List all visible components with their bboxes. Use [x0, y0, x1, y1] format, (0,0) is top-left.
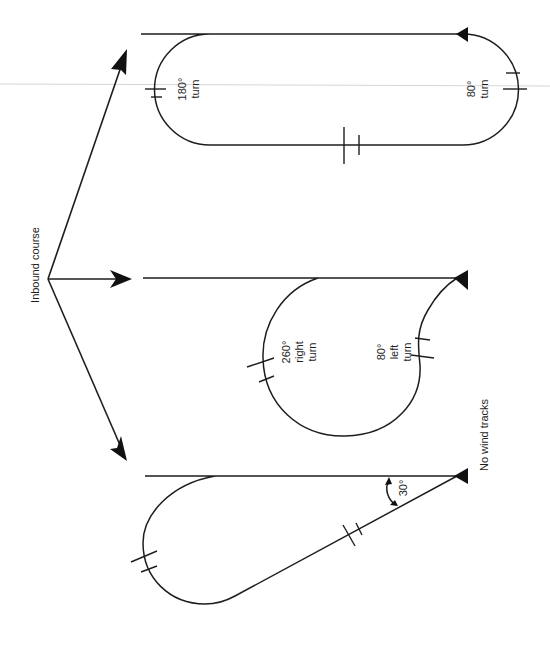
svg-text:180°: 180° [176, 78, 188, 101]
tick-mark [247, 358, 274, 367]
angle-30-label: 30° [397, 480, 409, 497]
no-wind-tracks-label: No wind tracks [478, 398, 490, 471]
fix-marker-teardrop-icon [454, 468, 468, 484]
teardrop-path [143, 476, 457, 604]
fix-marker-racetrack-icon [456, 27, 468, 42]
racetrack-right-turn-label: 80° turn [465, 80, 490, 99]
svg-text:80°: 80° [375, 344, 387, 361]
svg-text:turn: turn [401, 343, 413, 362]
svg-text:left: left [388, 345, 400, 360]
tick-mark [415, 338, 430, 340]
svg-text:260°: 260° [280, 341, 292, 364]
holding-pattern-entries-diagram: Inbound course 180° turn 80° turn [0, 0, 550, 646]
svg-text:turn: turn [478, 80, 490, 99]
svg-text:80°: 80° [465, 81, 477, 98]
left-turn-80-label: 80° left turn [375, 343, 413, 362]
svg-text:turn: turn [189, 80, 201, 99]
tick-mark [356, 523, 362, 535]
teardrop-circle-pattern: 260° right turn 80° left turn [143, 270, 468, 436]
arrow-to-racetrack [48, 58, 124, 279]
arrow-to-teardrop [48, 279, 123, 452]
racetrack-left-turn-label: 180° turn [176, 78, 201, 101]
fix-marker-teardrop-circle-icon [454, 270, 468, 290]
inbound-course-label: Inbound course [29, 227, 41, 303]
inbound-course-group: Inbound course [29, 49, 132, 461]
racetrack-pattern: 180° turn 80° turn [141, 27, 527, 164]
teardrop-pattern: 30° [131, 468, 468, 604]
tick-mark [411, 355, 434, 358]
right-turn-260-label: 260° right turn [280, 341, 318, 364]
svg-text:turn: turn [306, 343, 318, 362]
svg-text:right: right [293, 341, 305, 362]
angle-arrowhead-icon [385, 477, 392, 485]
tick-mark [343, 525, 355, 546]
